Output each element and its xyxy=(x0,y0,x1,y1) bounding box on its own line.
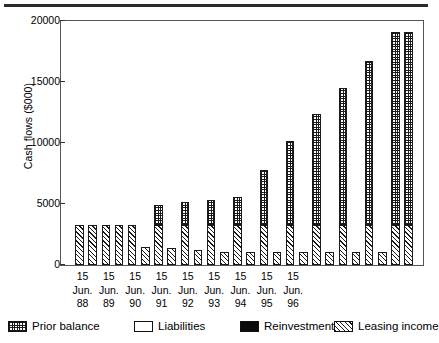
bar xyxy=(286,141,295,265)
legend-swatch-white-icon xyxy=(134,321,153,332)
header-rule xyxy=(4,4,428,7)
legend-label: Prior balance xyxy=(32,320,100,332)
bar-segment-prior-balance xyxy=(312,114,321,224)
bar-segment-leasing-income xyxy=(181,225,190,265)
bar xyxy=(115,225,124,265)
bar-segment-leasing-income xyxy=(88,225,97,265)
y-axis-tick-label: 15000 xyxy=(14,76,60,86)
y-axis-tick-label: 5000 xyxy=(14,198,60,208)
legend-item: Liabilities xyxy=(134,318,205,334)
x-axis-tick-label-line: 15 xyxy=(273,270,313,284)
bar-segment-leasing-income xyxy=(207,225,216,265)
bar xyxy=(141,247,150,265)
y-axis-tick-mark xyxy=(60,20,65,21)
bar-segment-leasing-income xyxy=(102,225,111,265)
bars-layer xyxy=(61,21,423,265)
bar xyxy=(365,61,374,265)
bar xyxy=(75,225,84,265)
bar-segment-leasing-income xyxy=(273,252,282,265)
x-axis-tick-label-line: Jun. xyxy=(273,284,313,298)
legend-swatch-solid-black-icon xyxy=(240,321,259,332)
bar xyxy=(339,88,348,266)
bar-segment-leasing-income xyxy=(141,247,150,265)
bar xyxy=(325,252,334,265)
y-axis-tick-label: 0 xyxy=(14,259,60,269)
bar xyxy=(312,114,321,265)
bar-segment-prior-balance xyxy=(404,32,413,225)
bar-segment-leasing-income xyxy=(220,252,229,265)
bar-segment-prior-balance xyxy=(207,200,216,224)
bar-segment-leasing-income xyxy=(299,252,308,265)
bar xyxy=(378,252,387,265)
legend-swatch-checkered-icon xyxy=(8,321,27,332)
bar xyxy=(88,225,97,265)
bar xyxy=(391,32,400,265)
bar-segment-leasing-income xyxy=(233,225,242,265)
bar-segment-prior-balance xyxy=(154,205,163,225)
bar-segment-leasing-income xyxy=(115,225,124,265)
bar-segment-leasing-income xyxy=(194,250,203,265)
legend-item: Reinvestment xyxy=(240,318,334,334)
bar xyxy=(220,252,229,265)
plot-area xyxy=(60,20,424,266)
y-axis-tick-mark xyxy=(60,203,65,204)
legend-swatch-diagonal-hatch-icon xyxy=(334,321,353,332)
y-axis-tick-labels: 05000100001500020000 xyxy=(0,0,60,343)
bar xyxy=(299,252,308,265)
bar-segment-prior-balance xyxy=(339,88,348,225)
bar xyxy=(404,32,413,265)
bar xyxy=(181,202,190,265)
bar-segment-prior-balance xyxy=(260,170,269,225)
y-axis-tick-mark xyxy=(60,81,65,82)
bar xyxy=(233,197,242,265)
bar-segment-leasing-income xyxy=(391,225,400,265)
bar-segment-leasing-income xyxy=(339,225,348,265)
bar-segment-leasing-income xyxy=(75,225,84,265)
bar-segment-leasing-income xyxy=(325,252,334,265)
legend-item: Leasing income xyxy=(334,318,439,334)
y-axis-tick-mark xyxy=(60,142,65,143)
bar xyxy=(273,252,282,265)
x-axis-tick-labels: 15Jun.8815Jun.8915Jun.9015Jun.9115Jun.92… xyxy=(60,270,424,314)
bar xyxy=(194,250,203,265)
bar xyxy=(154,205,163,265)
bar-segment-leasing-income xyxy=(378,252,387,265)
bar-segment-prior-balance xyxy=(233,197,242,224)
bar-segment-leasing-income xyxy=(246,252,255,265)
bar-segment-leasing-income xyxy=(128,225,137,265)
legend-label: Leasing income xyxy=(358,320,439,332)
bar-segment-leasing-income xyxy=(154,225,163,265)
bar xyxy=(260,170,269,265)
bar-segment-prior-balance xyxy=(391,32,400,225)
bar-segment-leasing-income xyxy=(365,225,374,265)
legend-label: Reinvestment xyxy=(264,320,334,332)
y-axis-tick-label: 10000 xyxy=(14,137,60,147)
bar xyxy=(207,200,216,265)
bar-segment-leasing-income xyxy=(167,248,176,265)
bar xyxy=(128,225,137,265)
chart-legend: Prior balanceLiabilitiesReinvestmentLeas… xyxy=(4,318,428,336)
bar-segment-prior-balance xyxy=(181,202,190,225)
bar xyxy=(167,248,176,265)
bar xyxy=(102,225,111,265)
bar-segment-leasing-income xyxy=(352,252,361,265)
bar-segment-prior-balance xyxy=(286,141,295,225)
bar-segment-leasing-income xyxy=(404,225,413,265)
bar-segment-leasing-income xyxy=(260,225,269,265)
bar-segment-leasing-income xyxy=(312,225,321,265)
y-axis-tick-mark xyxy=(60,264,65,265)
bar xyxy=(246,252,255,265)
legend-label: Liabilities xyxy=(158,320,205,332)
x-axis-tick-label-line: 96 xyxy=(273,297,313,311)
bar-segment-leasing-income xyxy=(286,225,295,265)
y-axis-tick-label: 20000 xyxy=(14,15,60,25)
legend-item: Prior balance xyxy=(8,318,100,334)
bar xyxy=(352,252,361,265)
bar-segment-prior-balance xyxy=(365,61,374,225)
x-axis-tick-label: 15Jun.96 xyxy=(273,270,313,311)
